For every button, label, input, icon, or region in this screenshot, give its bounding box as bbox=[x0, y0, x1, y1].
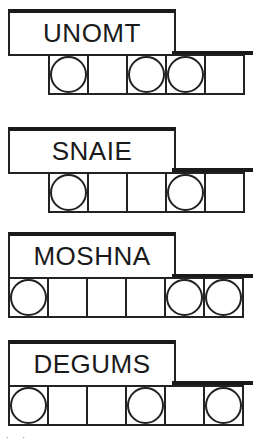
answer-cell-circled[interactable] bbox=[48, 172, 89, 213]
answer-cell-circled[interactable] bbox=[126, 54, 167, 95]
jumble-puzzle-2: SNAIE bbox=[0, 127, 267, 217]
footer-marks: . . bbox=[6, 431, 31, 440]
answer-cell-circled[interactable] bbox=[203, 385, 244, 426]
scrambled-word-label: SNAIE bbox=[8, 127, 176, 174]
scrambled-word-label: DEGUMS bbox=[8, 340, 176, 387]
answer-cell[interactable] bbox=[86, 385, 127, 426]
answer-cell[interactable] bbox=[126, 172, 167, 213]
answer-cells bbox=[48, 172, 243, 213]
answer-cells bbox=[48, 54, 243, 95]
answer-cell-circled[interactable] bbox=[165, 172, 206, 213]
scrambled-word-label: UNOMT bbox=[8, 9, 176, 56]
answer-cell[interactable] bbox=[125, 277, 166, 318]
answer-cell[interactable] bbox=[47, 277, 88, 318]
answer-cell[interactable] bbox=[87, 54, 128, 95]
answer-cell[interactable] bbox=[204, 172, 245, 213]
scrambled-word-label: MOSHNA bbox=[8, 232, 176, 279]
jumble-puzzle-1: UNOMT bbox=[0, 9, 267, 99]
answer-cell-circled[interactable] bbox=[165, 54, 206, 95]
answer-cell[interactable] bbox=[47, 385, 88, 426]
answer-cell-circled[interactable] bbox=[8, 277, 49, 318]
answer-cells bbox=[8, 385, 242, 426]
answer-cell-circled[interactable] bbox=[125, 385, 166, 426]
answer-cell-circled[interactable] bbox=[48, 54, 89, 95]
answer-cell-circled[interactable] bbox=[164, 277, 205, 318]
answer-cells bbox=[8, 277, 242, 318]
jumble-puzzle-3: MOSHNA bbox=[0, 232, 267, 322]
jumble-puzzle-4: DEGUMS bbox=[0, 340, 267, 430]
answer-cell-circled[interactable] bbox=[8, 385, 49, 426]
answer-cell[interactable] bbox=[86, 277, 127, 318]
answer-cell[interactable] bbox=[204, 54, 245, 95]
answer-cell-circled[interactable] bbox=[203, 277, 244, 318]
answer-cell[interactable] bbox=[87, 172, 128, 213]
answer-cell[interactable] bbox=[164, 385, 205, 426]
